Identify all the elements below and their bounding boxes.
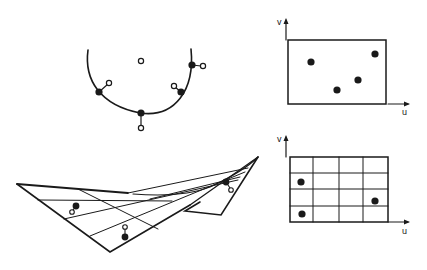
v-axis-label: v — [277, 17, 282, 27]
surface-open-point — [70, 210, 75, 215]
open-point-right-upper — [200, 63, 205, 68]
twisted-surface-panel — [17, 157, 258, 252]
v-axis-arrow-icon — [284, 135, 289, 141]
open-point-left — [106, 80, 111, 85]
u-axis-label: u — [402, 107, 407, 117]
uv-grid-panel — [284, 135, 411, 225]
surface-rulings — [38, 168, 248, 236]
open-point-bottom — [138, 125, 143, 130]
surface-open-point — [123, 225, 128, 230]
uv-domain-panel — [284, 18, 411, 107]
uv-point — [355, 77, 361, 83]
uv-point — [372, 51, 378, 57]
grid-point — [298, 179, 304, 185]
ruling-line — [38, 200, 172, 201]
uv-point — [308, 59, 314, 65]
offset-line-left — [99, 84, 108, 92]
grid-point — [299, 211, 305, 217]
grid-point — [372, 198, 378, 204]
u-axis-label: u — [402, 226, 407, 236]
center-open-point — [138, 58, 143, 63]
surface-edge-top-left — [17, 184, 128, 193]
open-point-right-lower — [171, 83, 176, 88]
u-axis-arrow-icon — [404, 220, 410, 225]
v-axis-arrow-icon — [284, 18, 289, 24]
surface-edge-left — [17, 184, 190, 252]
uv-domain-rect — [288, 40, 386, 104]
uv-point — [334, 87, 340, 93]
diagram-canvas: v u v u — [0, 0, 427, 270]
arc-panel — [87, 49, 205, 131]
u-axis-arrow-icon — [404, 102, 410, 107]
surface-open-point — [229, 188, 234, 193]
v-axis-label: v — [277, 134, 282, 144]
